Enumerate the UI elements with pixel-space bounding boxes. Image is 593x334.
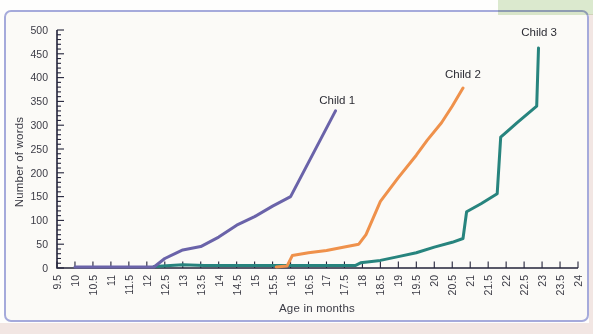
- x-tick-label: 19: [392, 275, 404, 287]
- series-label-child-2: Child 2: [445, 68, 481, 80]
- x-tick-label: 19.5: [410, 275, 422, 296]
- x-tick-label: 21: [464, 275, 476, 287]
- highlighter-band: [498, 0, 593, 15]
- x-tick-label: 22: [500, 275, 512, 287]
- x-tick-label: 11: [105, 275, 117, 286]
- y-tick-label: 250: [30, 143, 48, 155]
- x-tick-label: 23: [536, 275, 548, 287]
- y-tick-label: 150: [30, 190, 48, 202]
- y-tick-label: 400: [30, 71, 48, 83]
- x-tick-label: 17.5: [338, 275, 350, 296]
- x-tick-label: 18: [356, 275, 368, 287]
- y-tick-label: 450: [30, 48, 48, 60]
- y-tick-label: 200: [30, 167, 48, 179]
- vocabulary-growth-chart: 0501001502002503003504004505009.51010.51…: [6, 12, 587, 320]
- x-axis-title: Age in months: [279, 302, 355, 314]
- y-tick-label: 50: [36, 238, 48, 250]
- x-tick-label: 16.5: [303, 275, 315, 296]
- chart-panel: 0501001502002503003504004505009.51010.51…: [4, 10, 589, 322]
- series-label-child-1: Child 1: [319, 94, 355, 106]
- x-tick-label: 22.5: [518, 275, 530, 296]
- x-tick-label: 18.5: [374, 275, 386, 296]
- y-tick-label: 0: [42, 262, 48, 274]
- y-axis-title: Number of words: [13, 117, 25, 208]
- page-side-strip: [589, 14, 593, 334]
- series-label-child-3: Child 3: [521, 26, 557, 38]
- tick-labels: 0501001502002503003504004505009.51010.51…: [30, 24, 584, 296]
- x-tick-label: 12.5: [159, 275, 171, 296]
- series-line-child-1: [75, 111, 336, 267]
- page-bottom-strip: [0, 323, 593, 334]
- y-tick-label: 300: [30, 119, 48, 131]
- y-tick-label: 500: [30, 24, 48, 36]
- x-tick-label: 13: [177, 275, 189, 287]
- x-tick-label: 21.5: [482, 275, 494, 296]
- x-tick-label: 14.5: [231, 275, 243, 296]
- x-tick-label: 10.5: [87, 275, 99, 296]
- x-tick-label: 12: [141, 275, 153, 287]
- x-tick-label: 15: [249, 275, 261, 287]
- x-tick-label: 10: [69, 275, 81, 287]
- series-labels: Child 1Child 2Child 3: [319, 26, 557, 106]
- x-tick-label: 15.5: [267, 275, 279, 296]
- x-tick-label: 11.5: [123, 275, 135, 295]
- series-lines: [75, 48, 539, 267]
- x-tick-label: 20.5: [446, 275, 458, 296]
- y-tick-label: 350: [30, 95, 48, 107]
- x-tick-label: 20: [428, 275, 440, 287]
- y-tick-label: 100: [30, 214, 48, 226]
- x-tick-label: 17: [320, 275, 332, 287]
- x-tick-label: 24: [572, 275, 584, 287]
- x-tick-label: 13.5: [195, 275, 207, 296]
- page: 0501001502002503003504004505009.51010.51…: [0, 0, 593, 334]
- x-tick-label: 16: [285, 275, 297, 287]
- series-line-child-2: [276, 88, 463, 267]
- x-tick-label: 9.5: [51, 275, 63, 290]
- x-tick-label: 23.5: [554, 275, 566, 296]
- x-tick-label: 14: [213, 275, 225, 287]
- series-line-child-3: [154, 48, 539, 267]
